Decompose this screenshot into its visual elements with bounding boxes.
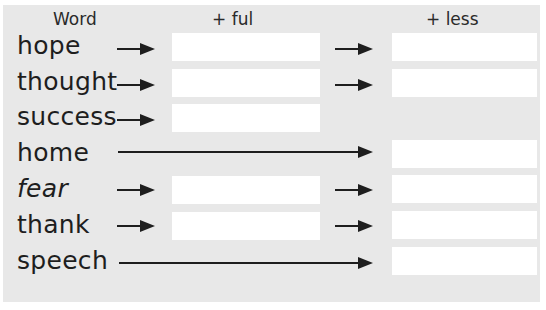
arrow-right-icon xyxy=(117,79,155,91)
header-less: + less xyxy=(426,8,479,30)
word-success: success xyxy=(17,102,117,132)
thank-ful-field[interactable] xyxy=(172,212,320,240)
fear-less-field[interactable] xyxy=(392,175,537,203)
arrow-right-icon xyxy=(335,43,373,55)
word-thank: thank xyxy=(17,210,90,240)
success-ful-field[interactable] xyxy=(172,104,320,132)
arrow-right-icon xyxy=(335,184,373,196)
arrow-right-icon xyxy=(335,220,373,232)
long-arrow-right-icon xyxy=(118,146,373,158)
word-fear: fear xyxy=(17,174,68,204)
arrow-right-icon xyxy=(117,220,155,232)
long-arrow-right-icon xyxy=(119,257,373,269)
header-ful: + ful xyxy=(212,8,253,30)
speech-less-field[interactable] xyxy=(392,247,537,275)
thought-less-field[interactable] xyxy=(392,69,537,97)
hope-ful-field[interactable] xyxy=(172,33,320,61)
home-less-field[interactable] xyxy=(392,140,537,168)
hope-less-field[interactable] xyxy=(392,33,537,61)
thank-less-field[interactable] xyxy=(392,211,537,239)
word-thought: thought xyxy=(17,67,117,97)
arrow-right-icon xyxy=(117,184,155,196)
arrow-right-icon xyxy=(117,114,155,126)
word-hope: hope xyxy=(17,31,81,61)
header-word: Word xyxy=(53,8,97,30)
thought-ful-field[interactable] xyxy=(172,69,320,97)
word-home: home xyxy=(17,138,89,168)
word-speech: speech xyxy=(17,246,108,276)
arrow-right-icon xyxy=(117,43,155,55)
fear-ful-field[interactable] xyxy=(172,176,320,204)
arrow-right-icon xyxy=(335,79,373,91)
